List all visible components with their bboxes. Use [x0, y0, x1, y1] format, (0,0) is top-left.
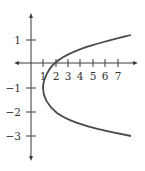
y-tick-label-1: 1 — [14, 34, 21, 46]
x-tick-label-2: 2 — [53, 70, 60, 82]
chart: 1 2 3 4 5 6 7 1 −1 −2 −3 — [0, 0, 145, 171]
x-axis-left-arrow-icon — [14, 61, 19, 65]
x-tick-label-6: 6 — [102, 70, 109, 82]
x-tick-label-7: 7 — [115, 70, 122, 82]
x-tick-label-4: 4 — [77, 70, 84, 82]
x-axis-right-arrow-icon — [133, 61, 138, 65]
y-tick-label-neg1: −1 — [6, 82, 21, 94]
x-tick-label-5: 5 — [90, 70, 97, 82]
parabola-curve — [43, 35, 131, 136]
x-tick-label-3: 3 — [65, 70, 72, 82]
y-tick-label-neg2: −2 — [6, 106, 21, 118]
y-axis-top-arrow-icon — [29, 13, 33, 18]
y-axis-bottom-arrow-icon — [29, 156, 33, 161]
y-tick-label-neg3: −3 — [6, 130, 21, 142]
